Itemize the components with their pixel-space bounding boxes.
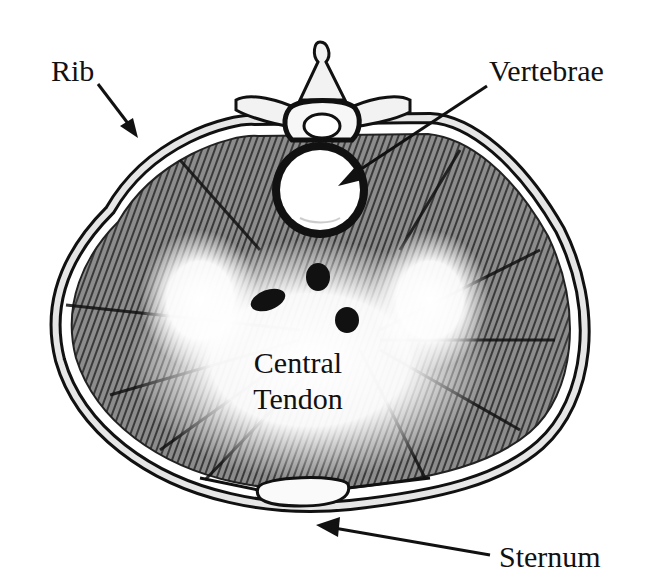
- vertebrae-label: Vertebrae: [489, 56, 604, 86]
- rib-leader-arrow: [98, 84, 138, 138]
- sternum-label: Sternum: [499, 542, 601, 572]
- central-tendon-label: Central Tendon: [238, 345, 358, 417]
- diaphragm-illustration: [0, 0, 668, 588]
- central-tendon-label-line2: Tendon: [238, 381, 358, 417]
- diaphragm-diagram: Rib Vertebrae Central Tendon Sternum: [0, 0, 668, 588]
- sternum-leader-arrow: [316, 517, 490, 555]
- rib-label: Rib: [51, 56, 94, 86]
- central-tendon-label-line1: Central: [238, 345, 358, 381]
